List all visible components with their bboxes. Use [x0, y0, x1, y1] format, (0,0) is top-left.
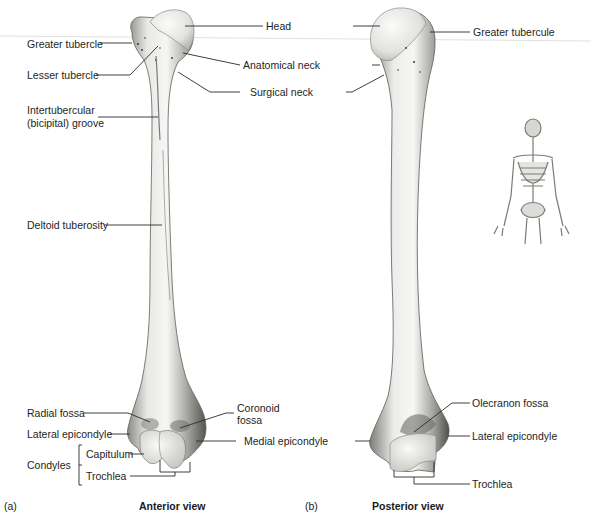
- label-medial-epicondyle: Medial epicondyle: [244, 435, 328, 447]
- panel-label-a: (a): [4, 500, 17, 512]
- label-lesser-tubercle: Lesser tubercle: [27, 69, 99, 81]
- label-anatomical-neck: Anatomical neck: [243, 59, 320, 71]
- label-trochlea-posterior: Trochlea: [472, 478, 512, 490]
- label-condyles: Condyles: [27, 459, 71, 471]
- humerus-diagram: Greater tubercle Lesser tubercle Intertu…: [0, 0, 591, 521]
- humerus-anterior: [127, 10, 206, 468]
- label-radial-fossa: Radial fossa: [27, 407, 85, 419]
- label-olecranon-fossa: Olecranon fossa: [472, 397, 548, 409]
- label-surgical-neck: Surgical neck: [250, 86, 313, 98]
- label-greater-tubercule: Greater tubercule: [473, 26, 555, 38]
- label-lateral-epicondyle-posterior: Lateral epicondyle: [472, 430, 557, 442]
- caption-anterior-view: Anterior view: [139, 500, 206, 512]
- label-coronoid-fossa-1: Coronoid: [237, 402, 280, 414]
- label-intertubercular-groove-2: (bicipital) groove: [27, 117, 104, 129]
- label-lateral-epicondyle-anterior: Lateral epicondyle: [27, 428, 112, 440]
- label-coronoid-fossa-2: fossa: [237, 414, 262, 426]
- label-trochlea-anterior: Trochlea: [86, 470, 126, 482]
- label-intertubercular-groove-1: Intertubercular: [27, 104, 95, 116]
- label-head: Head: [266, 20, 291, 32]
- panel-label-b: (b): [305, 500, 318, 512]
- humerus-posterior: [370, 8, 449, 472]
- label-deltoid-tuberosity: Deltoid tuberosity: [27, 219, 108, 231]
- label-capitulum: Capitulum: [86, 448, 133, 460]
- caption-posterior-view: Posterior view: [372, 500, 444, 512]
- label-greater-tubercle: Greater tubercle: [27, 38, 103, 50]
- skeleton-inset-icon: [494, 119, 569, 244]
